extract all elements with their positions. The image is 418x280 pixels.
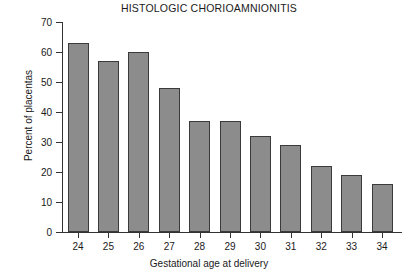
- y-tick-label: 60: [0, 47, 52, 58]
- y-tick-mark: [56, 52, 62, 53]
- y-tick-mark: [56, 202, 62, 203]
- x-tick-mark: [78, 233, 79, 238]
- bar: [68, 43, 89, 232]
- x-tick-label: 31: [276, 241, 306, 252]
- x-axis-label: Gestational age at delivery: [0, 258, 418, 269]
- bar: [341, 175, 362, 232]
- x-tick-label: 26: [124, 241, 154, 252]
- x-tick-mark: [108, 233, 109, 238]
- x-tick-label: 33: [337, 241, 367, 252]
- y-tick-mark: [56, 142, 62, 143]
- x-tick-mark: [230, 233, 231, 238]
- x-tick-label: 27: [154, 241, 184, 252]
- x-tick-mark: [382, 233, 383, 238]
- x-tick-mark: [260, 233, 261, 238]
- bar: [189, 121, 210, 232]
- x-tick-mark: [139, 233, 140, 238]
- x-tick-mark: [169, 233, 170, 238]
- bar: [128, 52, 149, 232]
- bar-chart-figure: HISTOLOGIC CHORIOAMNIONITIS Percent of p…: [0, 0, 418, 280]
- x-tick-label: 30: [245, 241, 275, 252]
- bar: [220, 121, 241, 232]
- y-tick-mark: [56, 82, 62, 83]
- chart-title: HISTOLOGIC CHORIOAMNIONITIS: [0, 2, 418, 14]
- bar: [280, 145, 301, 232]
- x-tick-mark: [352, 233, 353, 238]
- bar: [250, 136, 271, 232]
- y-tick-label: 40: [0, 107, 52, 118]
- x-tick-label: 24: [63, 241, 93, 252]
- x-tick-label: 32: [306, 241, 336, 252]
- x-tick-label: 25: [93, 241, 123, 252]
- x-tick-label: 28: [185, 241, 215, 252]
- y-tick-mark: [56, 172, 62, 173]
- y-tick-mark: [56, 22, 62, 23]
- x-tick-label: 34: [367, 241, 397, 252]
- bar: [372, 184, 393, 232]
- bar: [159, 88, 180, 232]
- bar: [98, 61, 119, 232]
- y-tick-mark: [56, 232, 62, 233]
- x-tick-mark: [291, 233, 292, 238]
- y-tick-label: 50: [0, 77, 52, 88]
- y-tick-label: 10: [0, 197, 52, 208]
- bar: [311, 166, 332, 232]
- y-tick-label: 70: [0, 17, 52, 28]
- x-tick-mark: [321, 233, 322, 238]
- x-tick-label: 29: [215, 241, 245, 252]
- y-tick-label: 30: [0, 137, 52, 148]
- x-tick-mark: [200, 233, 201, 238]
- y-tick-mark: [56, 112, 62, 113]
- y-tick-label: 20: [0, 167, 52, 178]
- y-axis-line: [62, 22, 63, 233]
- y-tick-label: 0: [0, 227, 52, 238]
